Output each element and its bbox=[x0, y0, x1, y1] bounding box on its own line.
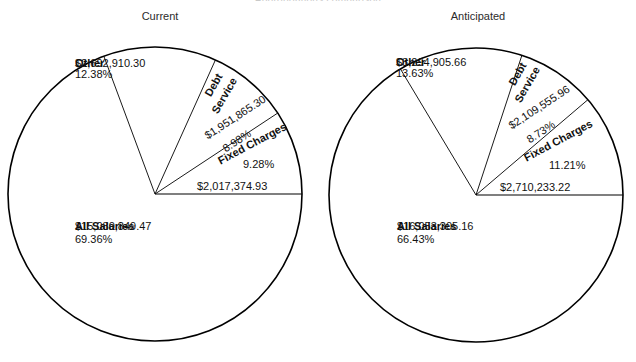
salaries-amount-anticipated: $16,053,305.16 bbox=[397, 220, 473, 234]
pie-chart-figure: Appropriations comparison Current Antici… bbox=[0, 0, 636, 362]
fixed-amount-anticipated: $2,710,233.22 bbox=[500, 181, 570, 195]
other-percent-anticipated: 13.63% bbox=[396, 67, 433, 81]
salaries-percent-anticipated: 66.43% bbox=[397, 233, 434, 247]
fixed-percent-anticipated: 11.21% bbox=[549, 159, 586, 173]
